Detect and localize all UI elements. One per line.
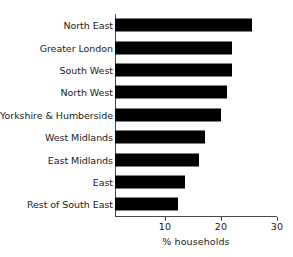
plot-area: North EastGreater LondonSouth WestNorth …	[0, 0, 293, 257]
bar-row: West Midlands	[0, 126, 293, 148]
bar-row: East Midlands	[0, 148, 293, 170]
bar-category-label: Rest of South East	[0, 199, 113, 210]
x-tick-label: 30	[262, 221, 292, 233]
bar-category-label: North West	[0, 87, 113, 98]
bar	[115, 175, 185, 188]
bar	[115, 86, 227, 99]
bar-category-label: East Midlands	[0, 154, 113, 165]
bar	[115, 153, 199, 166]
bar-category-label: East	[0, 176, 113, 187]
bar-category-label: Greater London	[0, 42, 113, 53]
x-tick-label: 10	[150, 221, 180, 233]
bar-row: Yorkshire & Humberside	[0, 104, 293, 126]
x-axis-line	[115, 216, 277, 217]
bar-row: Greater London	[0, 36, 293, 58]
bar	[115, 19, 252, 32]
bar-row: North East	[0, 14, 293, 36]
bar-category-label: West Midlands	[0, 132, 113, 143]
x-tick-label: 20	[206, 221, 236, 233]
x-axis-title: % households	[115, 236, 277, 247]
bar-chart: North EastGreater LondonSouth WestNorth …	[0, 0, 293, 257]
bar-row: East	[0, 171, 293, 193]
bar	[115, 41, 232, 54]
bar	[115, 63, 232, 76]
bar-category-label: South West	[0, 64, 113, 75]
bar-category-label: North East	[0, 20, 113, 31]
bar	[115, 108, 221, 121]
bar-row: North West	[0, 81, 293, 103]
bar-row: Rest of South East	[0, 193, 293, 215]
bar	[115, 131, 205, 144]
bar	[115, 198, 178, 211]
bar-category-label: Yorkshire & Humberside	[0, 109, 113, 120]
bar-row: South West	[0, 59, 293, 81]
